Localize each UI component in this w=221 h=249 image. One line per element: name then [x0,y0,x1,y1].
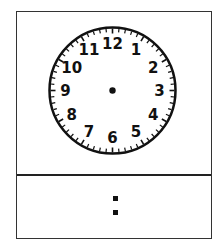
minute-tick [100,30,101,33]
clock-numeral-12: 12 [102,35,123,53]
clock-numeral-3: 3 [154,82,164,100]
minute-tick [141,140,144,144]
minute-tick [52,78,55,79]
minute-tick [62,125,65,127]
minute-tick [166,114,169,115]
digital-time-panel[interactable] [17,176,211,238]
minute-tick [56,65,59,66]
clock-numeral-10: 10 [61,59,82,77]
minute-tick [125,148,126,151]
minute-tick [170,78,173,79]
minute-tick [62,54,65,56]
minute-tick [131,146,132,149]
minute-tick [156,130,159,132]
minute-tick [87,144,88,147]
analog-clock-panel: 121234567891011 [17,12,211,174]
clock-numeral-2: 2 [148,59,158,77]
minute-tick [93,146,94,149]
minute-tick [66,130,69,132]
clock-numeral-4: 4 [148,106,158,124]
clock-numeral-5: 5 [131,123,141,141]
clock-numeral-1: 1 [131,41,141,59]
minute-tick [147,138,149,141]
minute-tick [162,60,166,63]
minute-tick [170,103,173,104]
minute-tick [141,37,144,41]
colon-dot-bottom [113,210,118,215]
minute-tick [152,134,154,137]
minute-tick [52,103,55,104]
minute-tick [59,119,63,122]
minute-tick [66,49,69,51]
clock-numeral-9: 9 [60,82,70,100]
minute-tick [71,134,73,137]
analog-clock-face: 121234567891011 [17,12,211,174]
minute-tick [147,40,149,43]
minute-tick [71,44,73,47]
minute-tick [54,71,57,72]
clock-numeral-6: 6 [107,129,117,147]
minute-tick [93,32,94,35]
minute-tick [166,65,169,66]
colon-dot-top [113,196,118,201]
minute-tick [131,32,132,35]
minute-tick [87,34,88,37]
minute-tick [136,144,137,147]
minute-tick [168,71,171,72]
minute-tick [100,148,101,151]
minute-tick [56,114,59,115]
time-colon-separator [113,196,119,216]
clock-center-pivot [109,87,115,93]
minute-tick [160,125,163,127]
minute-tick [160,54,163,56]
minute-tick [152,44,154,47]
minute-tick [168,109,171,110]
minute-tick [136,34,137,37]
minute-tick [162,119,166,122]
clock-numeral-7: 7 [84,123,94,141]
minute-tick [54,109,57,110]
clock-numeral-11: 11 [79,41,100,59]
minute-tick [156,49,159,51]
minute-tick [125,30,126,33]
clock-numeral-8: 8 [67,106,77,124]
clock-worksheet-card: 121234567891011 [16,11,212,239]
minute-tick [76,138,78,141]
